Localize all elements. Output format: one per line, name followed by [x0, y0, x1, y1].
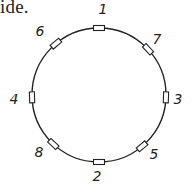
marker-label-6: 6 [36, 23, 45, 39]
marker-label-8: 8 [35, 144, 44, 160]
marker-8 [48, 138, 59, 149]
marker-6 [50, 38, 62, 49]
markers-group: 17352846 [10, 1, 183, 184]
marker-label-3: 3 [174, 91, 183, 107]
circle-diagram: 17352846 [0, 0, 192, 185]
marker-3 [163, 92, 168, 103]
marker-label-5: 5 [150, 146, 159, 162]
marker-4 [29, 92, 34, 103]
marker-label-1: 1 [99, 1, 108, 17]
marker-label-2: 2 [93, 168, 102, 184]
marker-label-7: 7 [153, 31, 162, 47]
marker-2 [94, 160, 105, 165]
marker-5 [136, 141, 148, 152]
marker-1 [94, 26, 105, 31]
marker-label-4: 4 [10, 91, 19, 107]
